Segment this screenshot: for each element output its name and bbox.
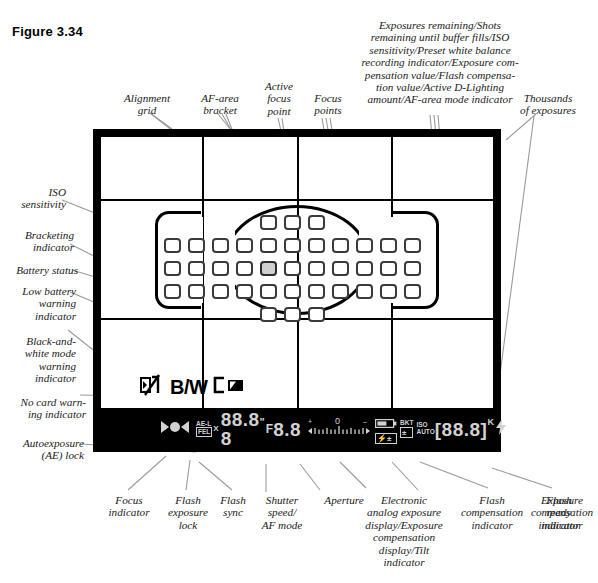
fe-lock-label: FEL <box>196 427 212 437</box>
flash-compensation-indicator: ⚡± <box>375 433 397 444</box>
flash-ready-icon <box>495 418 507 440</box>
ae-lock-label: AE-L <box>196 421 212 428</box>
callout-no-card-warning: No card warn- ing indicator <box>0 396 86 421</box>
focus-point[interactable] <box>284 238 301 253</box>
focus-point[interactable] <box>188 238 205 253</box>
svg-text:0: 0 <box>335 416 340 426</box>
viewfinder-screen: B/W <box>101 137 493 408</box>
frames-bracket-open: [ <box>435 420 442 439</box>
focus-point[interactable] <box>212 261 229 276</box>
exposures-remaining-value: 88.8 <box>442 420 481 439</box>
focus-point[interactable] <box>212 238 229 253</box>
bracketing-and-exposure-comp-group: BKT ± <box>400 420 413 439</box>
warning-icon-row: B/W <box>139 374 246 400</box>
callout-shutter-speed-af-mode: Shutter speed/ AF mode <box>248 494 316 531</box>
battery-and-flash-comp-group: ⚡± <box>375 414 397 444</box>
focus-point[interactable] <box>308 238 325 253</box>
focus-point[interactable] <box>284 307 301 322</box>
focus-point[interactable] <box>164 261 181 276</box>
iso-sensitivity-group: ISO AUTO <box>416 422 434 435</box>
aperture-value: 8.8 <box>273 420 301 439</box>
no-card-warning-icon <box>212 375 246 399</box>
focus-point[interactable] <box>332 284 349 299</box>
iso-auto-label: AUTO <box>416 429 434 436</box>
focus-point[interactable] <box>404 284 421 299</box>
focus-point[interactable] <box>260 238 277 253</box>
focus-indicator-icon <box>159 419 193 439</box>
callout-battery-status: Battery status <box>0 264 78 276</box>
battery-status-icon <box>375 414 397 432</box>
callout-electronic-analog-exposure-display: Electronic analog exposure display/Expos… <box>356 494 452 568</box>
focus-point[interactable] <box>260 307 277 322</box>
focus-point[interactable] <box>380 284 397 299</box>
svg-text:–: – <box>363 418 367 425</box>
callout-iso-sensitivity: ISO sensitivity <box>0 186 66 211</box>
focus-point[interactable] <box>188 284 205 299</box>
focus-point[interactable] <box>212 284 229 299</box>
callout-flash-ready-indicator: Flash ready indicator <box>527 494 591 531</box>
focus-point[interactable] <box>308 261 325 276</box>
thousands-of-exposures-label: K <box>487 417 494 427</box>
focus-point[interactable] <box>260 284 277 299</box>
focus-point[interactable] <box>284 261 301 276</box>
focus-point[interactable] <box>332 238 349 253</box>
ae-fe-lock-group: AE-L FEL <box>196 421 212 438</box>
viewfinder-display: B/W AE-L FEL X <box>93 129 501 452</box>
focus-point[interactable] <box>404 261 421 276</box>
callout-thousands-of-exposures: Thousands of exposures <box>506 92 590 117</box>
callout-bracketing-indicator: Bracketing indicator <box>0 229 74 254</box>
focus-point[interactable] <box>308 307 325 322</box>
focus-point[interactable] <box>284 284 301 299</box>
focus-point[interactable] <box>356 238 373 253</box>
figure-caption: Figure 3.34 <box>12 24 83 39</box>
focus-point[interactable] <box>260 215 277 230</box>
focus-point[interactable] <box>332 261 349 276</box>
focus-point[interactable] <box>284 215 301 230</box>
focus-point[interactable] <box>164 284 181 299</box>
focus-point[interactable] <box>236 238 253 253</box>
focus-point[interactable] <box>380 238 397 253</box>
callout-black-and-white-warning: Black-and- white mode warning indicator <box>0 335 76 385</box>
focus-point[interactable] <box>308 215 325 230</box>
active-focus-point[interactable] <box>260 261 277 276</box>
focus-point[interactable] <box>236 284 253 299</box>
svg-text:+: + <box>308 418 312 425</box>
focus-point[interactable] <box>236 261 253 276</box>
shutter-speed-value: 88.8 8 <box>221 410 260 448</box>
shutter-speed-unit: " <box>260 416 265 428</box>
bracketing-indicator: BKT <box>400 420 413 427</box>
focus-point[interactable] <box>356 261 373 276</box>
callout-flash-compensation-indicator: Flash compensation indicator <box>452 494 532 531</box>
exposure-compensation-indicator: ± <box>400 427 413 438</box>
callout-ae-lock: Autoexposure (AE) lock <box>0 437 84 462</box>
viewfinder-status-bar: AE-L FEL X 88.8 8 " F 8.8 + 0 – <box>101 412 493 446</box>
low-battery-warning-icon <box>139 374 165 400</box>
black-and-white-mode-label: B/W <box>170 377 207 397</box>
focus-point[interactable] <box>308 284 325 299</box>
focus-point[interactable] <box>356 284 373 299</box>
focus-point[interactable] <box>380 261 397 276</box>
flash-sync-label: X <box>213 425 218 433</box>
focus-point[interactable] <box>188 261 205 276</box>
callout-low-battery-warning: Low battery warning indicator <box>0 285 76 322</box>
frames-bracket-close: ] <box>481 420 488 439</box>
focus-point[interactable] <box>404 238 421 253</box>
aperture-prefix: F <box>266 422 273 436</box>
analog-exposure-display: + 0 – <box>307 416 371 442</box>
focus-point[interactable] <box>164 238 181 253</box>
